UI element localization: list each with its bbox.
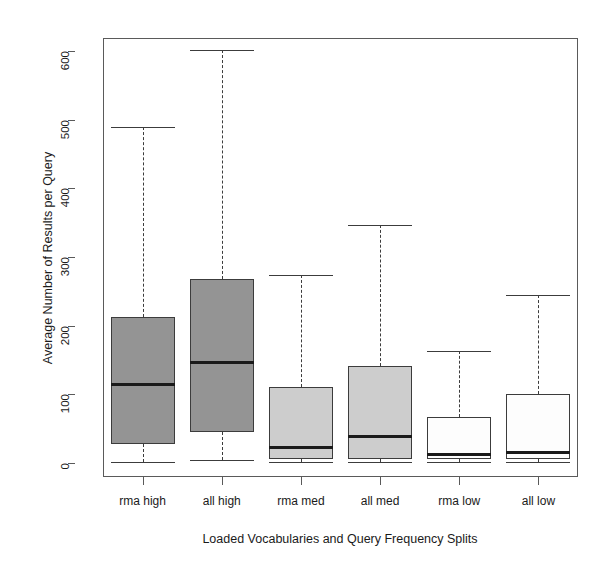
whisker-upper [222, 50, 223, 279]
whisker-cap-lower [269, 462, 333, 463]
boxplot-figure: 0100200300400500600 Average Number of Re… [0, 0, 613, 581]
whisker-lower [222, 432, 223, 460]
whisker-cap-upper [506, 295, 570, 296]
whisker-cap-lower [190, 460, 254, 461]
whisker-cap-lower [506, 462, 570, 463]
y-tick-label: 100 [59, 394, 71, 413]
median-line-rma-high [111, 383, 175, 386]
x-tick-label-rma-low: rma low [438, 494, 480, 508]
x-axis-title: Loaded Vocabularies and Query Frequency … [202, 532, 477, 546]
box-all-low [506, 394, 570, 459]
whisker-lower [143, 444, 144, 462]
whisker-cap-upper [111, 127, 175, 128]
whisker-cap-lower [348, 462, 412, 463]
whisker-cap-upper [269, 275, 333, 276]
whisker-cap-lower [111, 462, 175, 463]
box-all-med [348, 366, 412, 459]
whisker-cap-upper [427, 351, 491, 352]
median-line-rma-med [269, 446, 333, 449]
x-tick-mark [538, 477, 539, 485]
y-tick-label: 200 [59, 326, 71, 345]
y-tick-label: 600 [59, 51, 71, 70]
whisker-cap-upper [348, 225, 412, 226]
whisker-upper [143, 127, 144, 317]
x-tick-mark [301, 477, 302, 485]
x-tick-mark [459, 477, 460, 485]
whisker-upper [538, 295, 539, 395]
y-tick-label: 400 [59, 188, 71, 207]
y-tick-label: 300 [59, 257, 71, 276]
median-line-all-low [506, 451, 570, 454]
whisker-cap-upper [190, 50, 254, 51]
y-tick-label: 0 [59, 463, 71, 469]
median-line-all-high [190, 361, 254, 364]
whisker-cap-lower [427, 462, 491, 463]
x-tick-mark [222, 477, 223, 485]
whisker-upper [301, 275, 302, 387]
x-tick-label-rma-med: rma med [277, 494, 324, 508]
box-all-high [190, 279, 254, 432]
x-tick-label-rma-high: rma high [119, 494, 166, 508]
median-line-all-med [348, 435, 412, 438]
x-tick-label-all-high: all high [203, 494, 241, 508]
y-tick-label: 500 [59, 120, 71, 139]
whisker-upper [380, 225, 381, 366]
x-tick-label-all-low: all low [522, 494, 555, 508]
box-rma-high [111, 317, 175, 444]
whisker-upper [459, 351, 460, 417]
x-tick-mark [380, 477, 381, 485]
median-line-rma-low [427, 453, 491, 456]
x-tick-mark [143, 477, 144, 485]
x-tick-label-all-med: all med [361, 494, 400, 508]
y-axis-title: Average Number of Results per Query [41, 152, 55, 364]
